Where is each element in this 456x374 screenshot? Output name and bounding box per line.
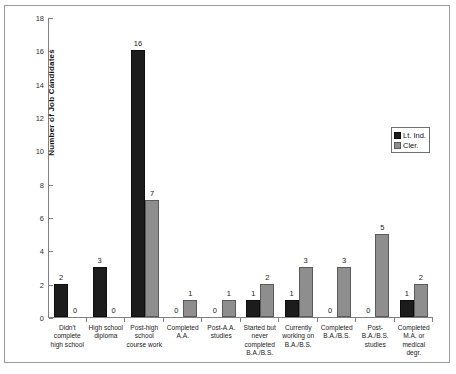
bar-group: 01 [203, 18, 241, 317]
x-axis-label-line: Completed [396, 324, 433, 332]
bar-slot: 1 [222, 18, 236, 317]
bar-value-label: 0 [213, 306, 217, 315]
x-axis-label-line: Post-A.A. [203, 324, 240, 332]
x-axis-label-line: B.A./B.S. [357, 332, 394, 340]
x-axis-ticks [48, 318, 433, 322]
bar-value-label: 0 [112, 306, 116, 315]
bar-group: 30 [87, 18, 125, 317]
bar-slot: 0 [208, 18, 222, 317]
bar[interactable]: 1 [246, 300, 260, 317]
bar[interactable]: 1 [400, 300, 414, 317]
bar[interactable]: 2 [54, 284, 68, 317]
x-axis-label-line: Completed [165, 324, 202, 332]
legend-swatch-icon [394, 142, 401, 149]
x-axis-label: Post-A.A.studies [202, 324, 241, 358]
bar-value-label: 0 [174, 306, 178, 315]
bar-value-label: 0 [328, 306, 332, 315]
x-axis-labels: Didn'tcompletehigh schoolHigh schooldipl… [48, 324, 433, 358]
bar[interactable]: 7 [145, 200, 159, 317]
bar-value-label: 3 [342, 256, 346, 265]
y-tick-label: 4 [26, 247, 44, 256]
x-axis-label: Post-highschoolcourse work [125, 324, 164, 358]
x-axis-label-line: school [126, 332, 163, 340]
bar-slot: 0 [323, 18, 337, 317]
x-tick-mark [87, 318, 126, 322]
bar[interactable]: 1 [222, 300, 236, 317]
bar-slot: 0 [68, 18, 82, 317]
legend-item[interactable]: Cler. [394, 140, 426, 150]
x-axis-label-line: Post- [357, 324, 394, 332]
x-tick-mark [241, 318, 280, 322]
plot-area: Number of Job Candidates 024681012141618… [48, 18, 433, 318]
legend-swatch-icon [394, 132, 401, 139]
bar[interactable]: 3 [93, 267, 107, 317]
bar-slot: 2 [260, 18, 274, 317]
bar-slot: 5 [375, 18, 389, 317]
bar[interactable]: 2 [414, 284, 428, 317]
x-axis-label: CompletedM.A. ormedical degr. [395, 324, 434, 358]
bar-value-label: 3 [304, 256, 308, 265]
x-axis-label: CompletedB.A./B.S. [318, 324, 357, 358]
x-axis-label: Started butnevercompletedB.A./B.S. [241, 324, 280, 358]
bar-value-label: 0 [73, 306, 77, 315]
x-axis-label-line: medical degr. [396, 341, 433, 358]
bar-group: 03 [318, 18, 356, 317]
x-axis-label-line: B.A./B.S. [319, 332, 356, 340]
chart-legend: Lt. Ind.Cler. [391, 127, 430, 153]
x-axis-label-line: working on [280, 332, 317, 340]
x-axis-label-line: B.A./B.S. [280, 341, 317, 349]
x-axis-label-line: complete [49, 332, 86, 340]
bar-group: 01 [164, 18, 202, 317]
bar-value-label: 2 [59, 273, 63, 282]
x-axis-label: Currentlyworking onB.A./B.S. [279, 324, 318, 358]
y-tick-label: 14 [26, 80, 44, 89]
bar-group: 12 [395, 18, 433, 317]
legend-item[interactable]: Lt. Ind. [394, 130, 426, 140]
x-tick-mark [318, 318, 357, 322]
y-tick-label: 10 [26, 147, 44, 156]
bar-value-label: 0 [366, 306, 370, 315]
bar[interactable]: 3 [299, 267, 313, 317]
bar[interactable]: 1 [285, 300, 299, 317]
bar-slot: 0 [169, 18, 183, 317]
x-axis-label-line: High school [88, 324, 125, 332]
bar-slot: 3 [93, 18, 107, 317]
x-tick-mark [125, 318, 164, 322]
bar-slot: 3 [337, 18, 351, 317]
bar-value-label: 5 [380, 223, 384, 232]
bar-slot: 1 [400, 18, 414, 317]
bar-group: 20 [49, 18, 87, 317]
y-tick-label: 0 [26, 314, 44, 323]
x-axis-label: High schooldiploma [87, 324, 126, 358]
bar[interactable]: 2 [260, 284, 274, 317]
x-tick-mark [356, 318, 395, 322]
bar-slot: 2 [54, 18, 68, 317]
y-tick-label: 2 [26, 280, 44, 289]
bar[interactable]: 16 [131, 50, 145, 317]
x-axis-label-line: Started but [242, 324, 279, 332]
bar-group: 12 [241, 18, 279, 317]
x-axis-label-line: studies [203, 332, 240, 340]
y-tick-label: 18 [26, 14, 44, 23]
y-tick-label: 16 [26, 47, 44, 56]
bar-value-label: 1 [405, 289, 409, 298]
bar[interactable]: 5 [375, 234, 389, 317]
y-tick-label: 8 [26, 180, 44, 189]
bar-groups: 203016701011213030512 [49, 18, 433, 317]
x-tick-mark [48, 318, 87, 322]
x-axis-label-line: M.A. or [396, 332, 433, 340]
bar[interactable]: 3 [337, 267, 351, 317]
bar-slot: 1 [246, 18, 260, 317]
bar-slot: 2 [414, 18, 428, 317]
x-axis-label-line: A.A. [165, 332, 202, 340]
bar-slot: 1 [183, 18, 197, 317]
x-axis-label-line: Post-high [126, 324, 163, 332]
y-tick-label: 6 [26, 214, 44, 223]
bar[interactable]: 1 [183, 300, 197, 317]
bar-slot: 0 [107, 18, 121, 317]
x-axis-label: CompletedA.A. [164, 324, 203, 358]
bar-value-label: 2 [419, 273, 423, 282]
bar-value-label: 2 [265, 273, 269, 282]
x-tick-mark [202, 318, 241, 322]
x-axis-label-line: never [242, 332, 279, 340]
